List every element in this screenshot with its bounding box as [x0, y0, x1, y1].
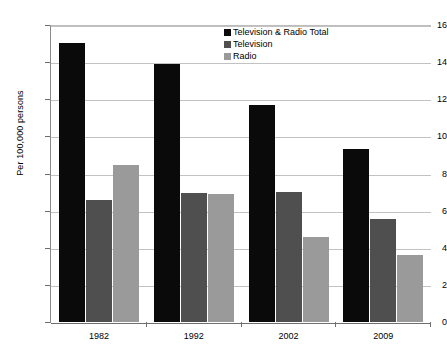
bar-1992-television-radio-total: [154, 64, 180, 322]
legend-swatch-icon-television: [224, 41, 231, 48]
bar-group-2009: [335, 25, 430, 322]
legend-label-television-radio-total: Television & Radio Total: [233, 27, 328, 37]
bar-group-1992: [146, 25, 241, 322]
x-tick-mark-3: [430, 322, 431, 327]
bar-1982-radio: [113, 165, 139, 322]
bar-1992-television: [181, 193, 207, 322]
legend-swatch-icon-radio: [224, 53, 231, 60]
bars-layer: [51, 25, 430, 322]
chart-legend: Television & Radio TotalTelevisionRadio: [224, 27, 328, 61]
legend-item-television-radio-total[interactable]: Television & Radio Total: [224, 27, 328, 37]
legend-item-radio[interactable]: Radio: [224, 51, 328, 61]
x-tick-mark-2: [335, 322, 336, 327]
legend-label-radio: Radio: [233, 51, 257, 61]
bar-2009-radio: [397, 255, 423, 322]
bar-1982-television-radio-total: [59, 43, 85, 322]
x-tick-label-2009: 2009: [353, 332, 413, 341]
bar-1992-radio: [208, 194, 234, 322]
x-tick-mark-0: [146, 322, 147, 327]
y-axis-title: Per 100,000 persons: [15, 43, 25, 223]
bar-2009-television: [370, 219, 396, 322]
x-tick-mark-1: [241, 322, 242, 327]
legend-swatch-icon-television-radio-total: [224, 29, 231, 36]
x-tick-label-1992: 1992: [164, 332, 224, 341]
legend-item-television[interactable]: Television: [224, 39, 328, 49]
bar-2009-television-radio-total: [343, 149, 369, 322]
bar-1982-television: [86, 200, 112, 323]
bar-group-2002: [241, 25, 336, 322]
bar-2002-radio: [303, 237, 329, 322]
bar-2002-television-radio-total: [249, 105, 275, 322]
bar-group-1982: [51, 25, 146, 322]
legend-label-television: Television: [233, 39, 273, 49]
x-tick-label-1982: 1982: [69, 332, 129, 341]
bar-2002-television: [276, 192, 302, 322]
x-tick-label-2002: 2002: [259, 332, 319, 341]
bar-chart: Per 100,000 persons 0246810121416 198219…: [0, 0, 447, 363]
